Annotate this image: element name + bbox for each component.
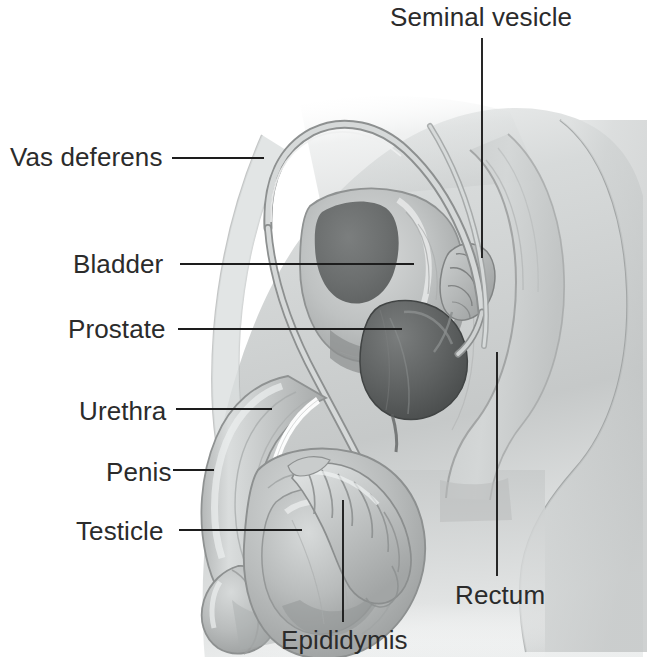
label-vas-deferens: Vas deferens xyxy=(10,144,162,170)
label-bladder: Bladder xyxy=(73,251,163,277)
label-epididymis: Epididymis xyxy=(281,627,408,653)
label-penis: Penis xyxy=(106,459,172,485)
label-seminal-vesicle: Seminal vesicle xyxy=(390,4,572,30)
label-rectum: Rectum xyxy=(455,582,545,608)
label-testicle: Testicle xyxy=(76,518,164,544)
label-urethra: Urethra xyxy=(79,398,166,424)
anatomy-diagram: Seminal vesicle Vas deferens Bladder Pro… xyxy=(0,0,647,657)
anal-canal-shadow xyxy=(440,478,512,522)
label-prostate: Prostate xyxy=(68,316,166,342)
